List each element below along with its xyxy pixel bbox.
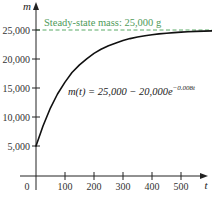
equation-exponent: −0.008t	[173, 84, 196, 92]
x-tick-label: 200	[87, 181, 102, 192]
x-tick-label: 400	[145, 181, 160, 192]
y-tick-label: 25,000	[3, 25, 31, 36]
x-tick-label: 100	[58, 181, 73, 192]
x-tick-label: 500	[174, 181, 189, 192]
y-tick-label: 20,000	[3, 54, 31, 65]
equation-label: m(t) = 25,000 − 20,000e−0.008t	[68, 84, 196, 98]
chart-canvas: 0 100 200 300 400 500 t 25,000 20,000 15…	[0, 0, 212, 199]
x-axis-label: t	[204, 179, 208, 191]
y-tick-label: 10,000	[3, 112, 31, 123]
y-axis-arrow-icon	[33, 2, 39, 10]
y-tick-label: 15,000	[3, 83, 31, 94]
equation-main: m(t) = 25,000 − 20,000e	[68, 86, 173, 98]
y-tick-label: 5,000	[8, 141, 31, 152]
y-axis-label: m	[23, 0, 31, 12]
x-origin-label: 0	[25, 181, 30, 192]
steady-state-annotation: Steady-state mass: 25,000 g	[44, 17, 162, 28]
x-tick-label: 300	[116, 181, 131, 192]
